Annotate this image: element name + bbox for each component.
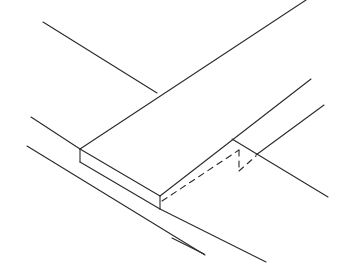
- board-back-edge-line: [80, 0, 306, 149]
- board-front-top-edge-line: [80, 149, 160, 196]
- back-left-rail-top-line: [43, 22, 157, 93]
- front-left-short-line: [172, 238, 204, 254]
- right-rail-near-line: [232, 139, 328, 197]
- hidden-notch-long-line: [162, 150, 239, 201]
- front-rail-lower-line: [160, 209, 266, 262]
- left-rail-lower-line: [27, 146, 205, 255]
- right-rail-far-line: [256, 105, 324, 155]
- hidden-notch-short-line: [239, 156, 256, 171]
- isometric-board-drawing: [0, 0, 343, 278]
- diagram-canvas: [0, 0, 343, 278]
- solid-edges: [27, 0, 328, 262]
- left-rail-upper-line: [31, 117, 80, 149]
- board-right-edge-line: [160, 79, 311, 196]
